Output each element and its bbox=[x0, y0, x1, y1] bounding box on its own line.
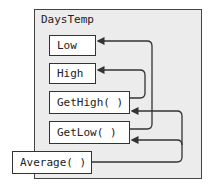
arrow-gethigh-high bbox=[98, 70, 145, 98]
arrow-average-gethigh bbox=[92, 111, 182, 162]
arrow-getlow-low bbox=[98, 41, 152, 129]
arrows bbox=[0, 0, 216, 195]
arrow-average-getlow bbox=[132, 140, 182, 145]
